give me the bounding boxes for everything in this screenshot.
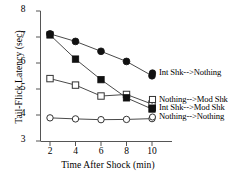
data-series-group xyxy=(47,30,156,122)
y-tick-label: 3 xyxy=(12,134,34,144)
x-tick-label: 10 xyxy=(138,146,166,156)
y-tick-label: 4 xyxy=(12,108,34,118)
legend-item-label: Int Shk-->Nothing xyxy=(159,67,221,77)
x-tick-label: 8 xyxy=(113,146,141,156)
y-axis-ticks xyxy=(36,11,41,141)
x-tick-label: 2 xyxy=(36,146,64,156)
y-tick-label: 6 xyxy=(12,56,34,66)
legend-item-label: Nothing-->Nothing xyxy=(159,111,224,121)
y-tick-label: 7 xyxy=(12,30,34,40)
chart-figure: Tail-Flick Latency (sec) Time After Shoc… xyxy=(0,0,252,181)
x-tick-label: 6 xyxy=(87,146,115,156)
y-tick-label: 8 xyxy=(12,4,34,14)
series-markers xyxy=(47,32,155,113)
x-axis-title: Time After Shock (min) xyxy=(38,160,178,170)
x-tick-label: 4 xyxy=(62,146,90,156)
y-tick-label: 5 xyxy=(12,82,34,92)
